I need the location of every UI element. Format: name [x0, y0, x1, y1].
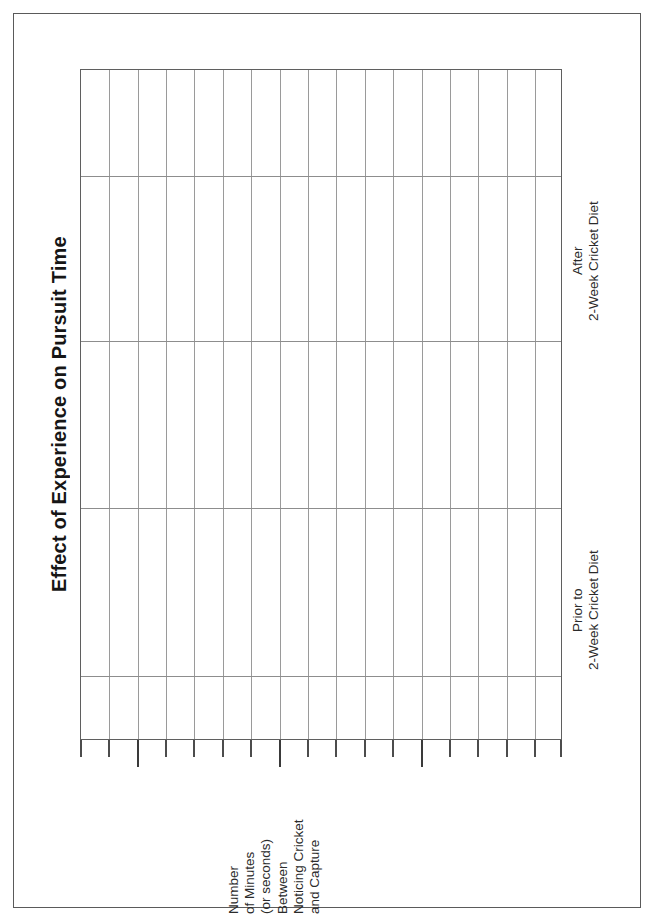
axis-tick [477, 740, 479, 757]
gridline-vertical [393, 70, 394, 739]
axis-tick [222, 740, 224, 757]
axis-tick [449, 740, 451, 757]
gridline-vertical [507, 70, 508, 739]
value-axis-label-line: and Capture [307, 786, 323, 914]
value-axis-label-line: of Minutes [242, 786, 258, 914]
axis-tick [560, 740, 562, 757]
gridline-vertical [422, 70, 423, 739]
value-axis-label: Number of Minutes (or seconds) Between N… [226, 786, 323, 914]
gridline-vertical [223, 70, 224, 739]
gridline-vertical [365, 70, 366, 739]
axis-tick [80, 740, 82, 757]
axis-tick [506, 740, 508, 757]
gridline-vertical [138, 70, 139, 739]
gridline-vertical [450, 70, 451, 739]
category-label-prior-line1: Prior to [570, 534, 586, 686]
value-axis-label-line: (or seconds) [258, 786, 274, 914]
gridline-horizontal [81, 676, 561, 677]
axis-tick [250, 740, 252, 757]
value-axis-label-line: Number [226, 786, 242, 914]
gridline-vertical [280, 70, 281, 739]
category-label-prior: Prior to 2-Week Cricket Diet [570, 534, 603, 686]
gridline-vertical [194, 70, 195, 739]
axis-tick [392, 740, 394, 757]
value-axis-label-line: Between [275, 786, 291, 914]
axis-tick [108, 740, 110, 757]
page-frame: Effect of Experience on Pursuit Time [13, 13, 641, 908]
axis-tick [193, 740, 195, 757]
category-label-after-line1: After [570, 186, 586, 336]
gridline-vertical [478, 70, 479, 739]
axis-tick-major [279, 740, 281, 767]
axis-tick-major [421, 740, 423, 767]
value-axis-label-line: Noticing Cricket [291, 786, 307, 914]
gridline-vertical [336, 70, 337, 739]
axis-tick [165, 740, 167, 757]
axis-tick-row [80, 740, 562, 770]
category-label-prior-line2: 2-Week Cricket Diet [586, 534, 602, 686]
gridline-horizontal [81, 341, 561, 342]
axis-tick [364, 740, 366, 757]
gridline-horizontal [81, 176, 561, 177]
axis-tick-major [137, 740, 139, 767]
plot-area [80, 69, 562, 740]
gridline-vertical [109, 70, 110, 739]
category-label-after-line2: 2-Week Cricket Diet [586, 186, 602, 336]
axis-tick [307, 740, 309, 757]
category-label-after: After 2-Week Cricket Diet [570, 186, 603, 336]
page-title: Effect of Experience on Pursuit Time [48, 162, 71, 592]
gridline-vertical [308, 70, 309, 739]
gridline-vertical [251, 70, 252, 739]
axis-tick [335, 740, 337, 757]
gridline-vertical [535, 70, 536, 739]
axis-tick [534, 740, 536, 757]
gridline-horizontal [81, 508, 561, 509]
gridline-vertical [166, 70, 167, 739]
